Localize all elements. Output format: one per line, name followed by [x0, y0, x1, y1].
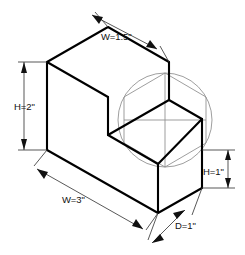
dimension-right-height: H=1" [202, 150, 235, 188]
arrow-right-bottom [225, 178, 231, 188]
isometric-drawing-canvas: W=1.5" H=2" H=1" W=3" [0, 0, 245, 255]
arrow-bottom-left [37, 169, 48, 179]
ext-line-bottom-right [146, 213, 158, 230]
arrow-top-right [146, 40, 157, 49]
label-right-height: H=1" [203, 166, 224, 177]
ext-line-depth-left [148, 213, 158, 240]
arrow-depth-right [173, 210, 185, 219]
dimension-left-height: H=2" [14, 62, 47, 150]
arrow-right-top [225, 150, 231, 160]
arrow-left-top [21, 62, 27, 73]
isometric-step-block-figure: W=1.5" H=2" H=1" W=3" [0, 0, 245, 255]
label-left-height: H=2" [14, 101, 35, 112]
label-bottom-width: W=3" [62, 194, 85, 205]
arrow-left-bottom [21, 139, 27, 150]
label-depth: D=1" [175, 220, 196, 231]
label-top-width: W=1.5" [101, 31, 132, 42]
ext-line-bottom-left [34, 150, 47, 166]
arrow-bottom-right [132, 219, 143, 229]
arrow-depth-left [152, 234, 164, 243]
arrow-top-left [92, 15, 103, 24]
